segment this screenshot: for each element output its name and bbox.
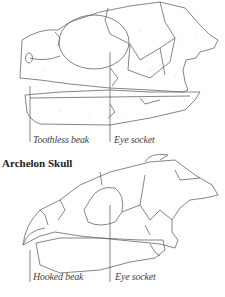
skull-comparison-figure: Toothless beak Eye socket Archelon Skull <box>0 0 225 297</box>
bottom-right-label: Eye socket <box>115 271 155 282</box>
bottom-left-label: Hooked beak <box>33 271 83 282</box>
bottom-skull-drawing <box>0 0 225 297</box>
